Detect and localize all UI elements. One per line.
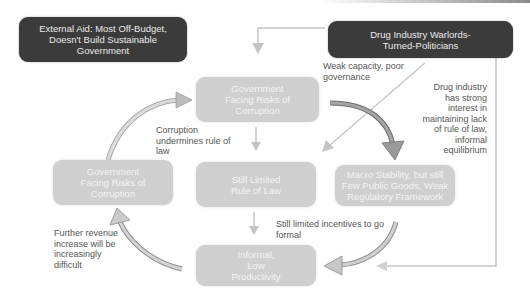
down-arrow-top (251, 127, 261, 151)
informal-productivity-box: Informal, Low Productivity (196, 245, 316, 286)
external-aid-box: External Aid: Most Off-Budget, Doesn't B… (19, 17, 187, 62)
gov-corruption-left-text: Government Facing Risks of Corruption (57, 166, 169, 199)
drug-warlords-text: Drug Industry Warlords-Turned-Politician… (332, 29, 509, 51)
corruption-undermines-label: Corruption undermines rule of law (156, 125, 234, 157)
external-aid-text: External Aid: Most Off-Budget, Doesn't B… (23, 23, 183, 56)
further-revenue-label: Further revenue increase will be increas… (54, 228, 126, 270)
drug-warlords-box: Drug Industry Warlords-Turned-Politician… (328, 21, 513, 58)
gov-corruption-left-box: Government Facing Risks of Corruption (53, 160, 173, 205)
limited-rule-of-law-text: Still Limited Rule of Law (200, 174, 312, 196)
gov-corruption-top-text: Government Facing Risks of Corruption (200, 83, 315, 116)
warlord-to-corruption-connector (252, 28, 325, 54)
limited-incentives-label: Still limited incentives to go formal (276, 219, 396, 240)
curve-arrow-top-to-macro (330, 103, 404, 160)
down-arrow-bottom (249, 212, 259, 235)
weak-capacity-label: Weak capacity, poor governance (323, 61, 408, 82)
macro-stability-text: Macro Stability, but still Few Public Go… (339, 169, 451, 202)
informal-productivity-text: Informal, Low Productivity (200, 249, 312, 282)
drug-interest-label: Drug industry has strong interest in mai… (420, 82, 487, 156)
gov-corruption-top-box: Government Facing Risks of Corruption (196, 77, 319, 122)
macro-stability-box: Macro Stability, but still Few Public Go… (335, 165, 455, 206)
limited-rule-of-law-box: Still Limited Rule of Law (196, 162, 316, 207)
